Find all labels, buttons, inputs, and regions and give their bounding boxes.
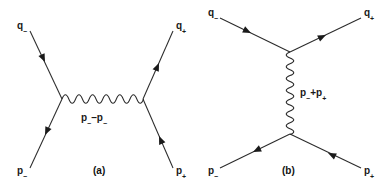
diagram-b-arrow-top-left <box>242 26 252 36</box>
subscript-plus: + <box>182 28 186 35</box>
diagram-b-arrow-bottom-right <box>327 150 337 160</box>
subscript-plus: + <box>182 173 186 180</box>
diagram-a-leg-top-left <box>30 31 62 99</box>
subscript-minus: − <box>306 95 310 102</box>
diagram-b-photon-propagator <box>286 52 294 135</box>
diagram-b-arrow-bottom-left <box>252 145 262 155</box>
subscript-minus: − <box>103 120 107 127</box>
diagram-a-photon-propagator <box>62 95 144 104</box>
diagram-b-label-p-plus: p+ <box>364 166 374 178</box>
diagram-b-group <box>220 18 361 168</box>
diagram-a-arrow-top-left <box>38 53 48 63</box>
diagram-a-arrowheads <box>38 53 165 145</box>
diagram-b-arrow-top-right <box>317 32 327 42</box>
diagram-a-caption: (a) <box>93 166 105 176</box>
subscript-minus: − <box>87 120 91 127</box>
diagram-a-label-q-plus: q+ <box>176 21 186 33</box>
diagram-a-arrow-top-right <box>153 62 163 72</box>
diagram-a-leg-bottom-right <box>143 99 173 168</box>
diagram-a-label-q-minus: q− <box>17 21 27 33</box>
diagram-canvas <box>0 0 390 189</box>
diagram-a-group <box>30 31 173 168</box>
diagram-b-label-q-minus: q− <box>208 8 218 20</box>
diagram-b-caption: (b) <box>282 166 295 176</box>
diagram-b-leg-top-right <box>290 18 361 52</box>
subscript-plus: + <box>322 95 326 102</box>
diagram-a-label-p-plus: p+ <box>176 166 186 178</box>
subscript-minus: − <box>23 28 27 35</box>
feynman-diagram-figure: q− q+ p− p+ p−–p− (a) q− q+ p− p+ p−+p+ … <box>0 0 390 189</box>
diagram-b-leg-bottom-right <box>290 134 361 168</box>
diagram-b-label-p-minus: p− <box>208 166 218 178</box>
diagram-b-leg-top-left <box>220 18 290 52</box>
diagram-a-arrow-bottom-left <box>42 126 52 136</box>
diagram-a-propagator-label: p−–p− <box>81 113 107 125</box>
subscript-minus: − <box>23 173 27 180</box>
diagram-a-arrow-bottom-right <box>156 135 166 145</box>
subscript-plus: + <box>370 15 374 22</box>
subscript-plus: + <box>370 173 374 180</box>
subscript-minus: − <box>214 173 218 180</box>
subscript-minus: − <box>214 15 218 22</box>
diagram-b-propagator-label: p−+p+ <box>300 88 326 100</box>
diagram-a-label-p-minus: p− <box>17 166 27 178</box>
diagram-b-label-q-plus: q+ <box>364 8 374 20</box>
